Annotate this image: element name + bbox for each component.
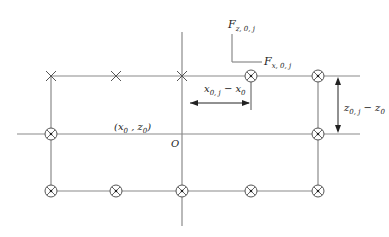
circle-cross-marker-icon <box>312 128 324 140</box>
circle-cross-marker-icon <box>45 128 57 140</box>
reference-point-label: (x0 , z0) <box>114 121 151 135</box>
z-dimension-arrow <box>335 77 341 133</box>
circle-cross-marker-icon <box>245 185 257 197</box>
circle-cross-marker-icon <box>45 185 57 197</box>
circle-cross-marker-icon <box>176 185 188 197</box>
circle-cross-marker-icon <box>312 185 324 197</box>
force-x-label: Fx, 0, j <box>263 55 292 70</box>
force-z-label: Fz, 0, j <box>227 18 256 33</box>
circle-cross-marker-icon <box>312 70 324 82</box>
diagram-canvas: Fz, 0, j Fx, 0, j x0, j − x0 z0, j − z0 … <box>0 0 389 237</box>
circle-cross-marker-icon <box>110 185 122 197</box>
force-vector-icon <box>232 34 262 62</box>
x-dimension-label: x0, j − x0 <box>204 83 246 97</box>
circle-cross-marker-icon <box>245 70 257 82</box>
origin-label: O <box>171 138 179 149</box>
z-dimension-label: z0, j − z0 <box>343 102 385 116</box>
